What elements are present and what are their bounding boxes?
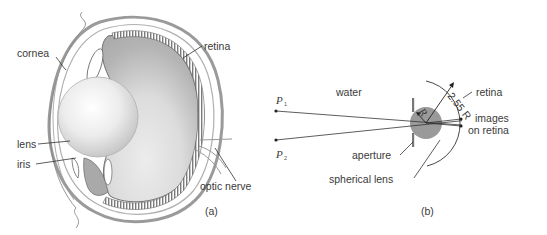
- radius-255r-arrowhead: [449, 82, 454, 88]
- lens-optics-diagram: water P 1 P 2 retina images on retina ap…: [274, 81, 509, 217]
- label-p1: P: [275, 94, 283, 106]
- ray-p1: [276, 111, 488, 127]
- label-retina-a: retina: [204, 40, 230, 52]
- lens-sphere: [58, 77, 138, 157]
- eye-anatomy-diagram: cornea retina lens iris optic nerve (a): [17, 12, 252, 228]
- spherical-lens-leader: [414, 140, 440, 178]
- label-p2: P: [275, 148, 283, 160]
- retina-leader-b: [463, 92, 472, 98]
- label-images-line2: on retina: [468, 124, 509, 136]
- label-retina-b: retina: [476, 86, 502, 98]
- image-point-2: [459, 124, 462, 127]
- point-p1: [274, 109, 277, 112]
- iris: [72, 158, 79, 178]
- label-optic-nerve: optic nerve: [200, 180, 252, 192]
- aperture-bar-bottom: [412, 133, 414, 147]
- label-p1-sub: 1: [284, 101, 287, 107]
- aperture-bar-top: [412, 98, 414, 112]
- aperture-leader: [400, 142, 413, 155]
- point-p2: [274, 138, 277, 141]
- optic-nerve-leader: [215, 148, 236, 181]
- label-p2-sub: 2: [284, 155, 287, 161]
- label-spherical-lens: spherical lens: [329, 173, 393, 185]
- eye-optics-figure: cornea retina lens iris optic nerve (a): [0, 0, 547, 235]
- label-images-line1: images: [475, 112, 509, 124]
- caption-b: (b): [421, 205, 434, 217]
- label-cornea: cornea: [17, 47, 49, 59]
- label-lens: lens: [17, 138, 36, 150]
- ciliary-lower: [104, 159, 112, 185]
- label-iris: iris: [17, 158, 30, 170]
- label-aperture: aperture: [352, 149, 391, 161]
- ray-p2: [276, 118, 488, 140]
- label-water: water: [335, 86, 362, 98]
- caption-a: (a): [205, 205, 218, 217]
